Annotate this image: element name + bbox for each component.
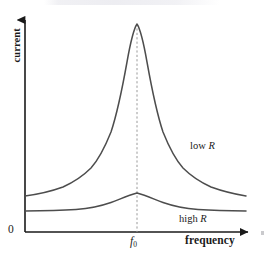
resonance-plot xyxy=(0,0,266,261)
x-axis-label: frequency xyxy=(185,235,235,247)
curve-label-high-r: high R xyxy=(179,214,207,225)
f0-subscript: 0 xyxy=(133,240,137,249)
high-r-symbol: R xyxy=(200,213,206,224)
curve-high-r xyxy=(25,193,246,211)
high-r-text: high xyxy=(179,213,200,224)
low-r-text: low xyxy=(190,140,208,151)
low-r-symbol: R xyxy=(208,140,214,151)
origin-label: 0 xyxy=(8,224,14,236)
curve-label-low-r: low R xyxy=(190,141,215,152)
resonance-curve-figure: current frequency 0 f0f0 low R high R xyxy=(0,0,266,261)
y-axis-label: current xyxy=(12,15,23,75)
curve-low-r xyxy=(25,24,246,196)
x-tick-label-f0: f0f0 xyxy=(130,236,137,248)
